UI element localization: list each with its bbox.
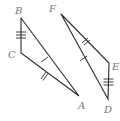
- triangle-def-outline: [61, 14, 109, 99]
- vertex-label-e: E: [111, 61, 120, 72]
- vertex-label-c: C: [8, 49, 16, 60]
- triangle-abc: B C A: [8, 5, 85, 111]
- vertex-label-a: A: [77, 100, 85, 111]
- triangle-def: F E D: [48, 3, 120, 115]
- side-ba-tick: [41, 57, 48, 62]
- triangle-diagram: B C A F E D: [0, 0, 120, 121]
- vertex-label-b: B: [14, 5, 22, 16]
- vertex-label-d: D: [103, 104, 112, 115]
- vertex-label-f: F: [48, 3, 57, 14]
- side-ca-ticks: [41, 72, 48, 81]
